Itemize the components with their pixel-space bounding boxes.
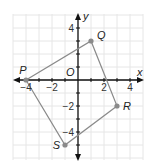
x-axis-label: x [136, 66, 143, 78]
y-axis-up-arrow-icon [75, 13, 81, 20]
y-axis-label: y [82, 10, 90, 22]
coordinate-plane: −4−2244−2−4xyOPQRS [0, 0, 146, 167]
point-s-marker [62, 142, 67, 147]
point-r-marker [114, 103, 119, 108]
point-q-label: Q [97, 29, 106, 41]
point-q-marker [88, 38, 93, 43]
x-axis-left-arrow-icon [13, 77, 20, 83]
point-s-label: S [53, 139, 61, 151]
x-tick-label: 4 [127, 82, 133, 93]
y-tick-label: −4 [63, 127, 75, 138]
point-p-label: P [19, 64, 27, 76]
origin-label: O [66, 66, 75, 78]
point-r-label: R [123, 100, 131, 112]
y-tick-label: 4 [68, 23, 74, 34]
x-tick-label: −4 [20, 82, 32, 93]
axes [13, 13, 144, 161]
x-tick-label: −2 [46, 82, 58, 93]
coordinate-plane-figure: −4−2244−2−4xyOPQRS [0, 0, 146, 167]
y-tick-label: −2 [63, 101, 75, 112]
x-tick-label: 2 [101, 82, 107, 93]
